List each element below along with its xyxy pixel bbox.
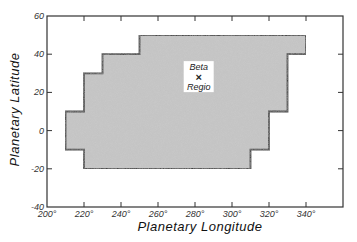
x-tick-label: 240° bbox=[111, 209, 131, 219]
y-axis-title: Planetary Latitude bbox=[7, 53, 22, 167]
x-tick-label: 220° bbox=[74, 209, 94, 219]
x-tick-label: 320° bbox=[260, 209, 279, 219]
annotation-label-bottom: Regio bbox=[187, 82, 211, 92]
x-tick-label: 280° bbox=[185, 209, 205, 219]
chart: 200°220°240°260°280°300°320°340° 6040200… bbox=[0, 0, 357, 242]
y-tick-label: -40 bbox=[31, 202, 44, 212]
x-tick-label: 260° bbox=[148, 209, 168, 219]
annotation-layer: Beta×Regio bbox=[184, 61, 214, 92]
x-tick-label: 300° bbox=[223, 209, 242, 219]
y-tick-label: 0 bbox=[39, 126, 44, 136]
coverage-region bbox=[66, 35, 307, 169]
x-axis-title: Planetary Longitude bbox=[137, 219, 262, 234]
y-tick-label: -20 bbox=[31, 164, 44, 174]
region-layer bbox=[66, 35, 307, 169]
y-tick-label: 60 bbox=[34, 11, 44, 21]
y-tick-label: 40 bbox=[34, 49, 44, 59]
y-tick-label: 20 bbox=[33, 87, 44, 97]
x-tick-label: 340° bbox=[297, 209, 316, 219]
